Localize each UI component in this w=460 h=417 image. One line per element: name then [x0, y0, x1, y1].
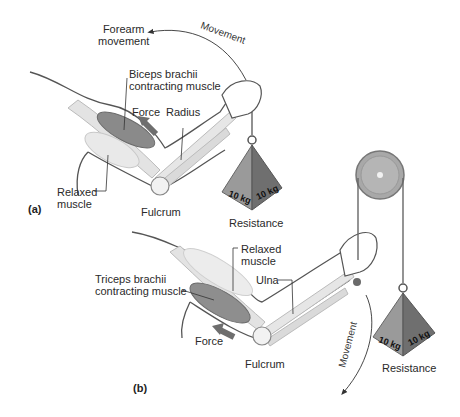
panel-b-weight: 10 kg 10 kg: [373, 284, 435, 356]
label-forearm-movement: Forearm movement: [98, 23, 149, 47]
label-force-b: Force: [195, 335, 223, 347]
svg-text:Movement: Movement: [336, 320, 359, 368]
label-forearm-line2: movement: [98, 35, 149, 47]
label-biceps-line2: contracting muscle: [129, 80, 221, 92]
label-triceps: Triceps brachii contracting muscle: [95, 273, 187, 297]
label-forearm-line1: Forearm: [98, 23, 149, 35]
label-triceps-line1: Triceps brachii: [95, 273, 187, 285]
label-radius: Radius: [166, 106, 200, 118]
label-relaxed-muscle-a: Relaxed muscle: [57, 186, 97, 210]
label-fulcrum-b: Fulcrum: [245, 358, 285, 370]
label-ulna: Ulna: [256, 274, 279, 286]
label-biceps-line1: Biceps brachii: [129, 68, 221, 80]
label-relaxed-a-line2: muscle: [57, 198, 97, 210]
label-triceps-line2: contracting muscle: [95, 285, 187, 297]
panel-b-tag: (b): [133, 382, 147, 394]
label-relaxed-b-line1: Relaxed: [241, 243, 281, 255]
label-resistance-a: Resistance: [229, 217, 283, 229]
label-resistance-b: Resistance: [382, 362, 436, 374]
label-biceps: Biceps brachii contracting muscle: [129, 68, 221, 92]
label-relaxed-a-line1: Relaxed: [57, 186, 97, 198]
label-relaxed-b-line2: muscle: [241, 255, 281, 267]
panel-a-tag: (a): [28, 203, 41, 215]
label-relaxed-muscle-b: Relaxed muscle: [241, 243, 281, 267]
label-fulcrum-a: Fulcrum: [141, 206, 181, 218]
svg-text:Movement: Movement: [199, 20, 247, 46]
label-force-a: Force: [132, 106, 160, 118]
